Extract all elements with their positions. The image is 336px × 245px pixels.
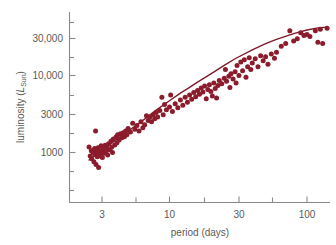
data-point bbox=[265, 62, 270, 67]
data-point bbox=[110, 150, 115, 155]
data-point bbox=[178, 98, 183, 103]
data-point bbox=[287, 28, 292, 33]
data-point bbox=[155, 114, 160, 119]
data-point bbox=[233, 69, 238, 74]
x-tick-label-30: 30 bbox=[233, 209, 245, 220]
data-point bbox=[96, 165, 101, 170]
data-point bbox=[234, 80, 239, 85]
data-point bbox=[100, 155, 105, 160]
data-point bbox=[130, 121, 135, 126]
data-point bbox=[295, 36, 300, 41]
y-tick-label-3000: 3000 bbox=[41, 109, 64, 120]
data-point bbox=[207, 82, 212, 87]
data-point bbox=[93, 129, 98, 134]
data-point bbox=[263, 54, 268, 59]
data-point bbox=[157, 108, 162, 113]
y-axis-title-main: luminosity ( bbox=[15, 92, 26, 143]
data-point bbox=[236, 73, 241, 78]
data-point bbox=[250, 61, 255, 66]
data-point bbox=[185, 100, 190, 105]
data-point bbox=[283, 41, 288, 46]
data-point bbox=[320, 41, 325, 46]
data-point bbox=[162, 102, 167, 107]
data-point bbox=[128, 129, 133, 134]
data-point bbox=[247, 55, 252, 60]
data-point bbox=[248, 67, 253, 72]
data-point bbox=[258, 53, 263, 58]
data-point bbox=[180, 103, 185, 108]
data-point bbox=[307, 34, 312, 39]
data-point bbox=[214, 96, 219, 101]
x-tick-label-10: 10 bbox=[164, 209, 176, 220]
data-point bbox=[142, 122, 147, 127]
data-point bbox=[173, 101, 178, 106]
data-point bbox=[170, 109, 175, 114]
data-point bbox=[168, 92, 173, 97]
data-point bbox=[224, 79, 229, 84]
data-point bbox=[183, 95, 188, 100]
y-axis-title-close: ) bbox=[15, 71, 26, 74]
data-point bbox=[105, 152, 110, 157]
data-point bbox=[269, 52, 274, 57]
data-point bbox=[325, 26, 330, 31]
data-point bbox=[223, 67, 228, 72]
x-tick-label-3: 3 bbox=[99, 209, 105, 220]
x-axis-title: period (days) bbox=[171, 227, 229, 238]
data-point bbox=[204, 96, 209, 101]
y-tick-label-1000: 1000 bbox=[41, 147, 64, 158]
data-point bbox=[279, 44, 284, 49]
y-tick-label-10000: 10,000 bbox=[32, 70, 63, 81]
data-point bbox=[255, 64, 260, 69]
data-point bbox=[167, 104, 172, 109]
data-point bbox=[227, 85, 232, 90]
data-point bbox=[243, 75, 248, 80]
data-point bbox=[235, 63, 240, 68]
y-tick-label-30000: 30,000 bbox=[32, 33, 63, 44]
data-point bbox=[318, 27, 323, 32]
data-point bbox=[240, 68, 245, 73]
data-point bbox=[253, 56, 258, 61]
x-tick-label-100: 100 bbox=[299, 209, 316, 220]
period-luminosity-chart: 30,000 10,000 3000 1000 3 10 30 100 peri… bbox=[0, 0, 336, 245]
data-point bbox=[200, 90, 205, 95]
data-point bbox=[315, 40, 320, 45]
data-point bbox=[231, 77, 236, 82]
data-point bbox=[175, 105, 180, 110]
y-axis-title-subscript: Sun bbox=[20, 74, 27, 87]
data-point bbox=[313, 28, 318, 33]
data-point bbox=[219, 81, 224, 86]
data-point bbox=[211, 80, 216, 85]
data-point bbox=[208, 89, 213, 94]
data-point bbox=[137, 129, 142, 134]
data-point bbox=[274, 50, 279, 55]
data-point bbox=[159, 95, 164, 100]
data-point bbox=[272, 56, 277, 61]
data-point bbox=[242, 57, 247, 62]
data-point bbox=[161, 112, 166, 117]
data-point bbox=[134, 123, 139, 128]
